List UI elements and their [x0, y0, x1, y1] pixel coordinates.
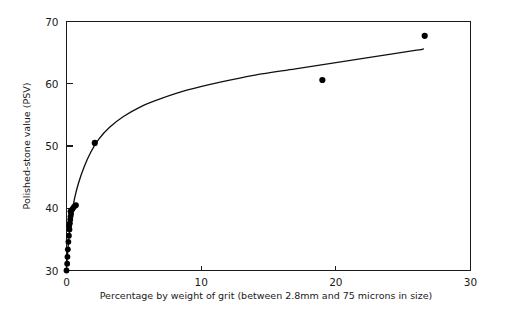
- x-tick-label: 30: [464, 276, 477, 288]
- y-tick-label: 40: [45, 202, 58, 214]
- y-tick-label: 50: [45, 140, 58, 152]
- data-point-marker: [92, 140, 98, 146]
- x-tick-label: 10: [194, 276, 207, 288]
- data-point-marker: [66, 233, 72, 239]
- plot-border: [67, 22, 471, 271]
- y-tick-label: 70: [45, 16, 58, 28]
- data-points: [64, 33, 428, 274]
- data-point-marker: [319, 77, 325, 83]
- x-tick-label: 20: [329, 276, 342, 288]
- data-point-marker: [65, 239, 71, 245]
- data-point-marker: [64, 268, 70, 274]
- data-point-marker: [73, 202, 79, 208]
- chart-figure: 0102030 3040506070 Percentage by weight …: [0, 0, 532, 314]
- y-axis-tick-labels: 3040506070: [45, 16, 58, 277]
- scatter-plot: 0102030 3040506070 Percentage by weight …: [0, 0, 532, 314]
- y-axis-title: Polished-stone value (PSV): [21, 83, 32, 210]
- y-tick-label: 30: [45, 265, 58, 277]
- data-point-marker: [64, 261, 70, 267]
- data-point-marker: [65, 254, 71, 260]
- fitted-trend-curve: [67, 49, 424, 271]
- y-axis-ticks: [67, 84, 73, 209]
- data-point-marker: [65, 246, 71, 252]
- y-tick-label: 60: [45, 78, 58, 90]
- data-point-marker: [422, 33, 428, 39]
- plot-frame: [67, 22, 471, 271]
- x-axis-tick-labels: 0102030: [63, 276, 477, 288]
- x-tick-label: 0: [63, 276, 70, 288]
- x-axis-ticks: [201, 266, 336, 271]
- x-axis-title: Percentage by weight of grit (between 2.…: [100, 290, 433, 301]
- trend-curve-path: [67, 49, 424, 271]
